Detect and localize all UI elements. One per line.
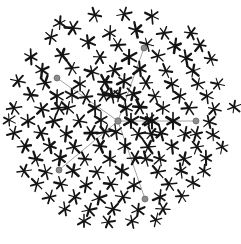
figure-container xyxy=(0,0,241,244)
glyph-scatter-plot xyxy=(0,0,241,244)
node-marker-ray-nw xyxy=(54,75,60,81)
node-marker-ray-e xyxy=(193,118,199,124)
glyph-arm xyxy=(90,171,97,172)
node-marker-ray-s xyxy=(142,196,148,202)
node-marker-center xyxy=(115,118,121,124)
glyph-arm xyxy=(65,27,73,28)
node-marker-ray-sw xyxy=(56,167,62,173)
glyph-arm xyxy=(104,183,111,184)
node-marker-ray-n xyxy=(141,45,147,51)
glyph-arm xyxy=(104,95,112,96)
